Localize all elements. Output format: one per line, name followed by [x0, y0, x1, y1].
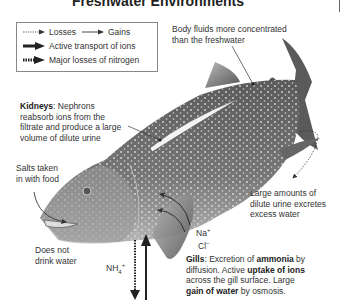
dorsal-fin: [205, 62, 240, 88]
dotted-arrow-icon: [23, 29, 45, 35]
body-fluids-label: Body fluids more concentrated than the f…: [172, 24, 287, 45]
legend-nitrogen-label: Major losses of nitrogen: [49, 55, 139, 65]
ammonium-label: NH4+: [106, 260, 125, 277]
legend-row-nitrogen: Major losses of nitrogen: [23, 55, 139, 65]
legend-box: Losses Gains Active transport of ions Ma…: [16, 22, 158, 72]
urine-label: Large amounts of dilute urine excretes e…: [250, 188, 326, 220]
thick-dotted-arrow-icon: [23, 56, 45, 64]
legend-row-active-transport: Active transport of ions: [23, 41, 135, 51]
thick-arrow-icon: [23, 42, 45, 50]
legend-losses-label: Losses: [49, 27, 76, 37]
solid-arrow-icon: [82, 29, 104, 35]
legend-gains-label: Gains: [108, 27, 130, 37]
drink-label: Does not drink water: [35, 245, 77, 266]
ions-label: Na+ Cl−: [196, 225, 210, 252]
kidneys-heading: Kidneys: [20, 101, 53, 111]
gills-label: Gills: Excretion of ammonia by diffusion…: [186, 254, 305, 296]
salts-label: Salts taken in with food: [16, 163, 59, 184]
kidneys-label: Kidneys: Nephrons reabsorb ions from the…: [20, 101, 121, 143]
legend-active-transport-label: Active transport of ions: [49, 41, 135, 51]
legend-row-losses-gains: Losses Gains: [23, 27, 130, 37]
